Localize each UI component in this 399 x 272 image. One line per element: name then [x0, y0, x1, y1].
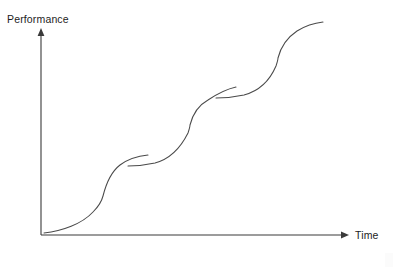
s-curve-segment-2: [128, 87, 236, 166]
y-axis-group: [38, 28, 45, 235]
x-axis-arrowhead-icon: [341, 232, 349, 239]
s-curve-segment-1: [44, 155, 148, 233]
performance-time-chart: Performance Time: [0, 0, 399, 272]
y-axis-arrowhead-icon: [38, 28, 45, 36]
x-axis-label: Time: [355, 229, 379, 241]
s-curve-segment-3: [216, 22, 323, 98]
x-axis-group: [41, 232, 349, 239]
figure-root: Performance Time: [0, 0, 399, 272]
curve-group: [44, 22, 323, 233]
y-axis-label: Performance: [7, 13, 69, 25]
